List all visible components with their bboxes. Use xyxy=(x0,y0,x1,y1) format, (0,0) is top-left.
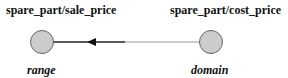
diagram: spare_part/sale_price range spare_part/c… xyxy=(0,0,288,78)
node-domain-role: domain xyxy=(191,63,228,77)
node-range-role: range xyxy=(27,63,56,77)
node-domain-circle[interactable] xyxy=(200,31,223,54)
arrowhead-left-icon xyxy=(87,38,96,46)
node-domain-title: spare_part/cost_price xyxy=(170,3,281,17)
node-range-circle[interactable] xyxy=(31,31,54,54)
node-range-title: spare_part/sale_price xyxy=(6,3,116,17)
